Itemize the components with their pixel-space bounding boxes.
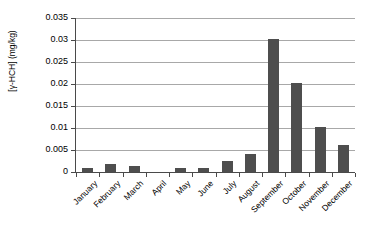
y-axis-tick-label: 0.025 bbox=[45, 57, 68, 66]
x-axis-tick-mark bbox=[355, 173, 356, 177]
y-axis-tick-mark bbox=[71, 62, 76, 63]
x-axis-tick-mark bbox=[123, 173, 124, 177]
y-axis-tick-label: 0.035 bbox=[45, 13, 68, 22]
x-axis-tick-label: March bbox=[122, 179, 145, 202]
x-axis-tick-mark bbox=[216, 173, 217, 177]
bar bbox=[245, 154, 256, 172]
x-axis-tick-mark bbox=[192, 173, 193, 177]
y-axis-tick-label: 0.015 bbox=[45, 101, 68, 110]
y-axis-tick-mark bbox=[71, 84, 76, 85]
y-axis-tick-label: 0.01 bbox=[50, 123, 68, 132]
y-axis-tick-mark bbox=[71, 40, 76, 41]
x-axis-tick-label: May bbox=[175, 179, 193, 197]
y-axis-tick-mark bbox=[71, 106, 76, 107]
bar bbox=[105, 164, 116, 172]
y-axis-tick-mark bbox=[71, 128, 76, 129]
x-axis-tick-mark bbox=[262, 173, 263, 177]
bars-layer bbox=[76, 18, 355, 172]
y-axis-tick-mark bbox=[71, 18, 76, 19]
y-axis-tick-label: 0.03 bbox=[50, 35, 68, 44]
x-axis-tick-mark bbox=[76, 173, 77, 177]
bar bbox=[291, 83, 302, 172]
x-axis-tick-mark bbox=[146, 173, 147, 177]
bar bbox=[268, 39, 279, 172]
x-axis-tick-labels: JanuaryFebruaryMarchAprilMayJuneJulyAugu… bbox=[0, 172, 377, 235]
y-axis-tick-label: 0.02 bbox=[50, 79, 68, 88]
x-axis-tick-mark bbox=[332, 173, 333, 177]
x-axis-tick-mark bbox=[99, 173, 100, 177]
x-axis-tick-label: June bbox=[196, 179, 215, 198]
x-axis-tick-mark bbox=[239, 173, 240, 177]
x-axis-tick-label: April bbox=[150, 179, 168, 197]
bar bbox=[338, 145, 349, 172]
x-axis-tick-mark bbox=[169, 173, 170, 177]
bar bbox=[315, 127, 326, 172]
y-axis-tick-mark bbox=[71, 150, 76, 151]
x-axis-tick-mark bbox=[309, 173, 310, 177]
x-axis-tick-label: July bbox=[221, 179, 238, 196]
x-axis-tick-mark bbox=[285, 173, 286, 177]
bar-chart: [γ-HCH] (mg/kg) 00.0050.010.0150.020.025… bbox=[0, 0, 377, 235]
bar bbox=[222, 161, 233, 172]
y-axis-tick-label: 0.005 bbox=[45, 145, 68, 154]
